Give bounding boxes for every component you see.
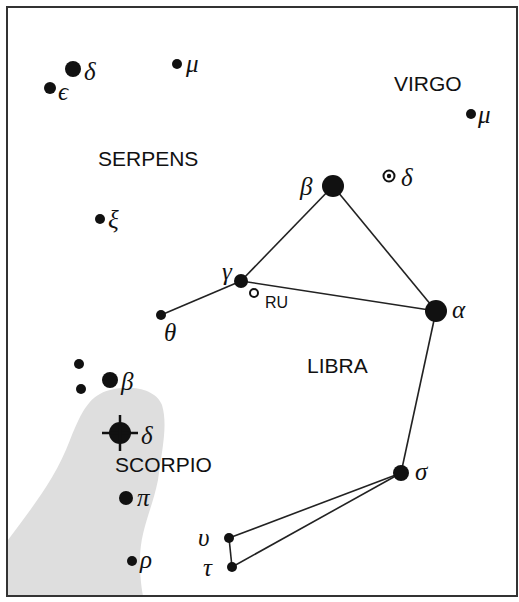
- star-serpens-xi: [95, 214, 105, 224]
- star-libra-upsilon: [224, 533, 234, 543]
- star-scorpio-beta: [102, 372, 118, 388]
- star-serpens-mu: [172, 59, 182, 69]
- label-libra-gamma: γ: [222, 258, 233, 285]
- label-libra-beta: β: [299, 173, 313, 200]
- star-chart: δ ϵ μ ξ SERPENS VIRGO μ δ β γ RU θ α LIB…: [0, 0, 519, 602]
- star-serpens-delta: [65, 61, 81, 77]
- constellation-label-libra: LIBRA: [307, 354, 368, 377]
- label-scorpio-delta: δ: [141, 422, 153, 449]
- star-scorpio-unnamed-2: [76, 384, 86, 394]
- label-libra-ru: RU: [265, 294, 288, 311]
- constellation-label-virgo: VIRGO: [394, 72, 462, 95]
- star-libra-alpha: [425, 300, 447, 322]
- star-libra-beta: [322, 175, 344, 197]
- star-libra-sigma: [393, 465, 409, 481]
- star-scorpio-rho: [127, 556, 137, 566]
- label-serpens-delta: δ: [84, 58, 96, 85]
- star-virgo-mu: [466, 109, 476, 119]
- libra-lines: [161, 186, 436, 567]
- label-scorpio-pi: π: [137, 484, 151, 511]
- label-serpens-mu: μ: [185, 50, 199, 77]
- label-libra-theta: θ: [164, 319, 176, 346]
- star-scorpio-pi: [119, 491, 133, 505]
- star-libra-ru: [250, 289, 258, 297]
- label-libra-tau: τ: [203, 554, 213, 581]
- label-libra-upsilon: υ: [198, 524, 209, 551]
- label-serpens-epsilon: ϵ: [58, 78, 69, 105]
- label-virgo-delta: δ: [401, 164, 413, 191]
- constellation-label-scorpio: SCORPIO: [115, 453, 212, 476]
- label-scorpio-beta: β: [120, 368, 134, 395]
- label-virgo-mu: μ: [477, 101, 491, 128]
- star-scorpio-unnamed-1: [74, 359, 84, 369]
- label-libra-sigma: σ: [415, 458, 429, 485]
- label-serpens-xi: ξ: [108, 206, 119, 233]
- label-scorpio-rho: ρ: [139, 546, 152, 573]
- star-libra-gamma: [234, 274, 248, 288]
- star-libra-tau: [227, 562, 237, 572]
- star-serpens-epsilon: [44, 82, 56, 94]
- label-libra-alpha: α: [452, 296, 466, 323]
- star-virgo-delta-core: [387, 174, 391, 178]
- constellation-label-serpens: SERPENS: [98, 147, 198, 170]
